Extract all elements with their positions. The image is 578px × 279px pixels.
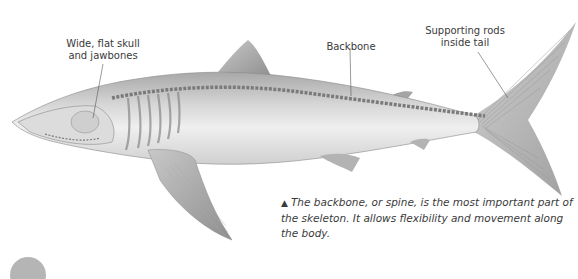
label-skull: Wide, flat skull and jawbones [48, 38, 158, 62]
caption: ▲The backbone, or spine, is the most imp… [281, 195, 578, 241]
pelvic-fin [320, 154, 360, 172]
label-skull-line1: Wide, flat skull [48, 38, 158, 50]
label-backbone-line1: Backbone [318, 41, 384, 53]
page-marker-circle [10, 257, 46, 279]
label-tail: Supporting rods inside tail [412, 25, 518, 49]
caption-text: The backbone, or spine, is the most impo… [281, 196, 573, 239]
label-tail-line2: inside tail [412, 37, 518, 49]
label-skull-line2: and jawbones [48, 50, 158, 62]
label-backbone: Backbone [318, 41, 384, 53]
triangle-marker-icon: ▲ [281, 198, 288, 208]
label-tail-line1: Supporting rods [412, 25, 518, 37]
